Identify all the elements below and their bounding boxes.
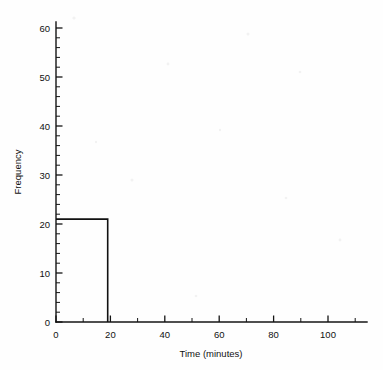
y-tick-label-20: 20 [39, 219, 50, 230]
y-tick-label-50: 50 [39, 72, 50, 83]
x-tick-label-40: 40 [160, 329, 171, 340]
y-tick-label-40: 40 [39, 121, 50, 132]
y-tick-label-30: 30 [39, 170, 50, 181]
x-tick-label-60: 60 [214, 329, 225, 340]
x-axis-title: Time (minutes) [180, 348, 243, 359]
chart-page: 0 10 20 30 40 50 60 0 [0, 0, 383, 370]
y-tick-label-10: 10 [39, 268, 50, 279]
y-tick-label-0: 0 [45, 317, 50, 328]
y-axis-title: Frequency [12, 149, 23, 194]
y-tick-label-60: 60 [39, 23, 50, 34]
x-tick-label-80: 80 [268, 329, 279, 340]
x-tick-label-100: 100 [320, 329, 336, 340]
x-tick-label-20: 20 [105, 329, 116, 340]
x-tick-label-0: 0 [53, 329, 58, 340]
histogram-chart: 0 10 20 30 40 50 60 0 [0, 0, 383, 370]
